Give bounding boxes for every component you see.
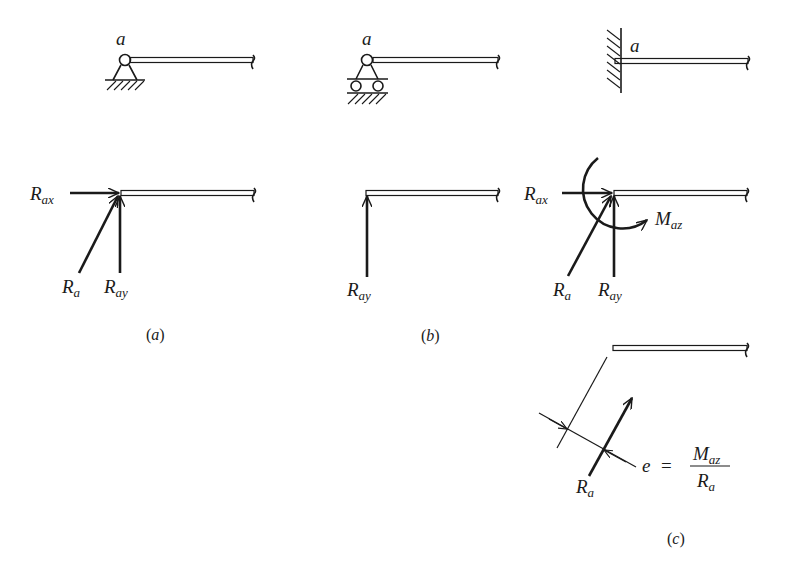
label-ra: Ra bbox=[61, 276, 81, 300]
dimension-arrow bbox=[549, 419, 567, 429]
free-body-b: Ray bbox=[346, 188, 500, 303]
point-label-a: a bbox=[116, 28, 126, 49]
label-rax: Rax bbox=[523, 183, 548, 207]
eccentricity-lhs: e bbox=[642, 455, 650, 476]
beam bbox=[366, 191, 498, 196]
force-arrow-ra-eccentric bbox=[589, 398, 632, 476]
beam bbox=[615, 59, 748, 64]
label-maz: Maz bbox=[654, 208, 682, 232]
beam bbox=[614, 191, 747, 196]
reference-line bbox=[557, 357, 607, 448]
pin-support-icon bbox=[113, 65, 137, 80]
free-body-a: Rax Ra Ray bbox=[29, 183, 256, 300]
roller-support-beam-b: a bbox=[347, 28, 500, 104]
fixed-support-beam-c: a bbox=[607, 28, 750, 93]
pin-icon bbox=[120, 55, 131, 66]
label-ray: Ray bbox=[597, 279, 622, 303]
caption-c: (c) bbox=[667, 530, 685, 548]
dimension-arrow bbox=[604, 450, 626, 462]
caption-b: (b) bbox=[421, 327, 440, 345]
fraction-denominator: Ra bbox=[696, 470, 716, 494]
roller-icon bbox=[373, 81, 383, 91]
fraction-numerator: Maz bbox=[692, 443, 720, 467]
beam bbox=[613, 346, 747, 351]
label-ray: Ray bbox=[346, 279, 371, 303]
force-arrow-ra bbox=[568, 196, 611, 276]
label-ray: Ray bbox=[103, 276, 128, 300]
label-ra: Ra bbox=[575, 476, 595, 500]
free-body-c: Rax Ra Ray Maz bbox=[523, 158, 749, 303]
point-label-a: a bbox=[630, 35, 640, 56]
force-arrow-ra bbox=[79, 196, 118, 273]
label-ra: Ra bbox=[552, 279, 572, 303]
equivalent-force-c: Ra e = Maz Ra bbox=[539, 343, 749, 500]
ground-hatch-icon bbox=[107, 81, 144, 90]
equals-sign: = bbox=[661, 455, 672, 476]
beam bbox=[121, 191, 254, 196]
ground-hatch-icon bbox=[348, 94, 386, 104]
pin-support-beam-a: a bbox=[105, 28, 255, 90]
pin-icon bbox=[362, 55, 373, 66]
roller-icon bbox=[351, 81, 361, 91]
caption-a: (a) bbox=[146, 326, 165, 344]
beam bbox=[130, 58, 253, 63]
point-label-a: a bbox=[362, 28, 372, 49]
reaction-diagram: a a bbox=[0, 0, 793, 581]
label-rax: Rax bbox=[29, 183, 54, 207]
beam bbox=[373, 58, 498, 63]
